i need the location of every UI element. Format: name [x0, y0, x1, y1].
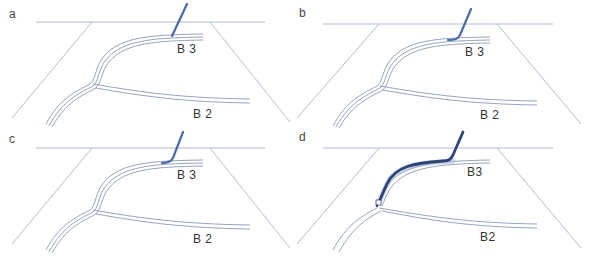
- b2-label: B2: [480, 230, 496, 244]
- airway-diagram: [295, 0, 589, 128]
- airway-diagram: [0, 0, 294, 128]
- airway-diagram: [295, 128, 589, 256]
- panel-c: c B 3 B 2: [0, 128, 294, 256]
- panel-b: b B 3 B 2: [295, 0, 589, 128]
- b3-label: B 3: [177, 168, 197, 182]
- panel-d: d B3 B2: [295, 128, 589, 256]
- b2-label: B 2: [193, 232, 213, 246]
- scope-inserted: [379, 132, 463, 202]
- panel-a: a B 3 B 2: [0, 0, 294, 128]
- b2-label: B 2: [480, 108, 500, 122]
- b3-label: B3: [467, 165, 483, 179]
- b2-label: B 2: [193, 107, 213, 121]
- b3-label: B 3: [177, 42, 197, 56]
- scope-tip-marker: [376, 200, 381, 205]
- b3-label: B 3: [465, 45, 485, 59]
- scope-tip: [172, 4, 187, 36]
- airway-diagram: [0, 128, 294, 256]
